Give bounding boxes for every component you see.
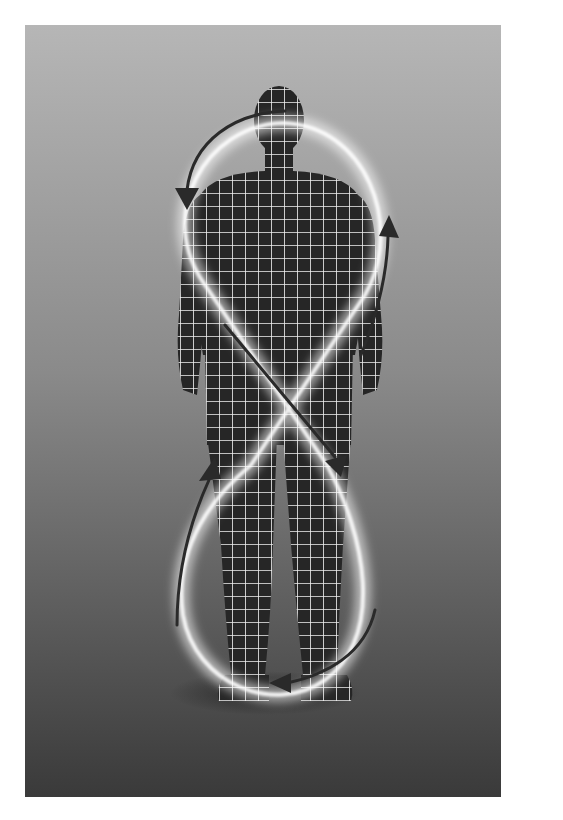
illustration-canvas — [25, 25, 501, 797]
illustration-frame: Human figure with figure-eight energy lo… — [25, 25, 501, 797]
